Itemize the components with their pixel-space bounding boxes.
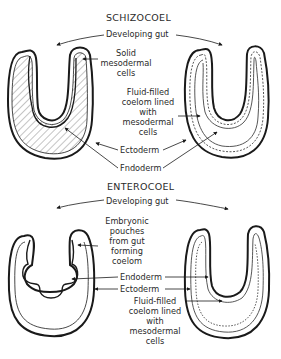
- schizocoel-fluid-coelom-label: Fluid-filled coelom lined with mesoderma…: [118, 87, 178, 137]
- schizocoel-left-embryo: [8, 48, 93, 159]
- enterocoel-gut-label: Developing gut: [106, 196, 169, 206]
- enterocoel-fluid-coelom-label: Fluid-filled coelom lined with mesoderma…: [125, 296, 185, 346]
- schizocoel-gut-label: Developing gut: [106, 29, 169, 39]
- embryonic-pouches-label: Embryonic pouches from gut forming coelo…: [102, 216, 152, 266]
- enterocoel-right-embryo: [185, 226, 269, 338]
- schizocoel-title: SCHIZOCOEL: [106, 13, 171, 23]
- enterocoel-endoderm-label: Endoderm: [120, 272, 162, 282]
- schizocoel-ectoderm-label: Ectoderm: [120, 145, 159, 155]
- schizocoel-endoderm-label: Fndoderm: [120, 163, 162, 173]
- enterocoel-title: ENTEROCOEL: [107, 182, 174, 192]
- schizocoel-right-embryo: [185, 46, 269, 157]
- enterocoel-left-embryo: [9, 230, 94, 336]
- coelom-formation-diagram: SCHIZOCOEL Developing gut Solid mesoderm…: [0, 0, 281, 359]
- enterocoel-ectoderm-label: Ectoderm: [120, 284, 159, 294]
- solid-mesoderm-label: Solid mesodermal cells: [100, 48, 152, 78]
